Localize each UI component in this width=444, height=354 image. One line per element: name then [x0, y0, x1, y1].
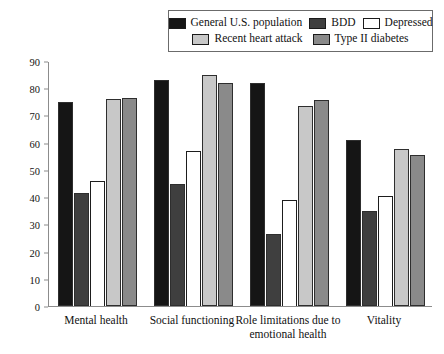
- bar[interactable]: [282, 200, 297, 306]
- bar-group: [58, 62, 137, 306]
- bar-chart: General U.S. populationBDDDepressed Rece…: [0, 0, 444, 354]
- y-axis-tick-label: 0: [35, 302, 40, 313]
- y-axis-tick-label: 30: [30, 220, 41, 231]
- plot-area: [48, 62, 432, 307]
- bar[interactable]: [346, 140, 361, 306]
- bar[interactable]: [394, 149, 409, 306]
- bar[interactable]: [90, 181, 105, 306]
- legend-swatch-icon: [169, 18, 186, 29]
- bar[interactable]: [250, 83, 265, 306]
- legend-entry[interactable]: Type II diabetes: [313, 33, 409, 45]
- legend-swatch-icon: [313, 34, 330, 45]
- bar-group: [346, 62, 425, 306]
- bar[interactable]: [202, 75, 217, 306]
- y-axis-tick-label: 10: [30, 274, 41, 285]
- y-axis: 0102030405060708090: [0, 62, 48, 307]
- bar[interactable]: [298, 106, 313, 306]
- bar-group: [250, 62, 329, 306]
- x-axis-label-line: Vitality: [299, 314, 444, 328]
- legend-label: Type II diabetes: [335, 33, 409, 45]
- legend-swatch-icon: [309, 18, 326, 29]
- bar-group: [154, 62, 233, 306]
- bar[interactable]: [410, 155, 425, 306]
- legend-swatch-icon: [363, 18, 380, 29]
- chart-legend: General U.S. populationBDDDepressed Rece…: [168, 10, 433, 52]
- bar[interactable]: [218, 83, 233, 306]
- y-axis-tick-label: 70: [30, 111, 41, 122]
- legend-swatch-icon: [192, 34, 209, 45]
- y-axis-tick-label: 90: [30, 57, 41, 68]
- bar[interactable]: [362, 211, 377, 306]
- y-axis-tick-label: 80: [30, 84, 41, 95]
- bar[interactable]: [378, 196, 393, 306]
- legend-entry[interactable]: Depressed: [363, 17, 433, 29]
- legend-row-2: Recent heart attackType II diabetes: [175, 31, 426, 47]
- legend-entry[interactable]: BDD: [309, 17, 355, 29]
- bar[interactable]: [314, 100, 329, 306]
- x-axis-label-line: emotional health: [203, 328, 373, 342]
- y-axis-tick-label: 60: [30, 138, 41, 149]
- bar[interactable]: [186, 151, 201, 306]
- x-axis-labels: Mental healthSocial functioningRole limi…: [48, 310, 432, 350]
- bar[interactable]: [58, 102, 73, 306]
- y-axis-tick-label: 20: [30, 247, 41, 258]
- bar[interactable]: [74, 193, 89, 306]
- x-axis-label: Vitality: [299, 314, 444, 328]
- bars-container: [49, 62, 432, 306]
- legend-label: BDD: [331, 17, 355, 29]
- bar[interactable]: [122, 98, 137, 306]
- legend-label: Recent heart attack: [214, 33, 302, 45]
- y-axis-tick-label: 40: [30, 193, 41, 204]
- legend-entry[interactable]: Recent heart attack: [192, 33, 302, 45]
- legend-entry[interactable]: General U.S. population: [169, 17, 303, 29]
- y-axis-tick-label: 50: [30, 165, 41, 176]
- bar[interactable]: [154, 80, 169, 306]
- bar[interactable]: [170, 184, 185, 307]
- legend-label: Depressed: [385, 17, 433, 29]
- legend-label: General U.S. population: [191, 17, 303, 29]
- legend-row-1: General U.S. populationBDDDepressed: [175, 15, 426, 31]
- bar[interactable]: [266, 234, 281, 306]
- bar[interactable]: [106, 99, 121, 306]
